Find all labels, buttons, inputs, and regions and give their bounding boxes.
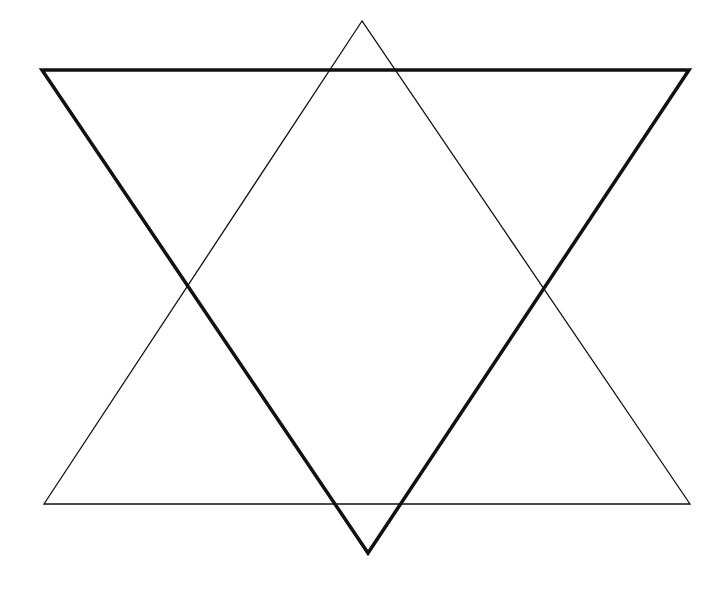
downward-triangle	[42, 70, 689, 553]
upward-triangle	[44, 21, 690, 504]
hexagram-diagram	[0, 0, 728, 592]
